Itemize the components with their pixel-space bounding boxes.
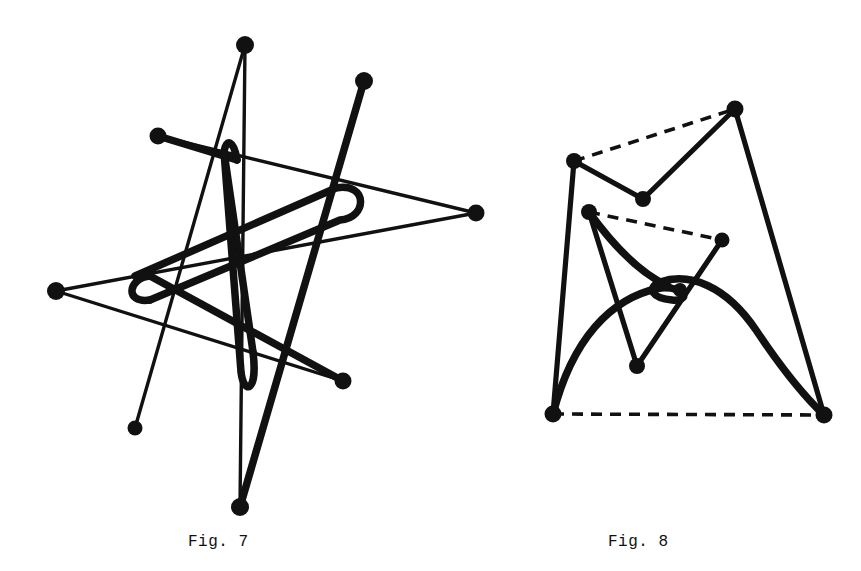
fig8-node-bottom-right (816, 407, 833, 424)
fig7-nodes (47, 36, 485, 516)
fig8-node-inner-upper-left (581, 204, 597, 220)
fig7-node-far-left (47, 282, 65, 300)
figure-8-drawing (510, 0, 861, 525)
fig8-node-outer-valley (635, 191, 651, 207)
fig8-outer-valley-left (574, 161, 643, 199)
fig7-thick-spline (132, 81, 364, 507)
fig8-node-outer-top-right (727, 101, 744, 118)
fig7-node-top-apex (236, 36, 254, 54)
fig8-inner-valley-left (589, 212, 637, 366)
fig7-node-mid-right (335, 373, 352, 390)
fig7-node-far-right (468, 205, 485, 222)
fig7-thick-diag-right (240, 81, 364, 507)
figure-plate: Fig. 7 Fig. 8 (0, 0, 861, 571)
fig7-node-bottom-apex (231, 498, 249, 516)
fig8-node-inner-right (715, 233, 730, 248)
fig8-dashed-chord-base (553, 414, 824, 415)
fig7-node-upper-left (150, 128, 167, 145)
fig8-thick-arc (553, 212, 824, 415)
fig7-node-upper-right (355, 72, 373, 90)
fig8-node-inner-valley (629, 358, 645, 374)
caption-figure-7: Fig. 7 (188, 533, 249, 551)
fig8-node-bottom-left (545, 406, 562, 423)
fig7-thin-star-polygon (56, 45, 476, 507)
figure-7-drawing (0, 0, 520, 525)
caption-figure-8: Fig. 8 (608, 533, 669, 551)
fig8-node-outer-upper-left (566, 153, 582, 169)
fig8-node-inner-cusp (673, 283, 687, 297)
fig7-node-lower-left (128, 421, 143, 436)
fig8-arc-left-rise (553, 288, 660, 414)
